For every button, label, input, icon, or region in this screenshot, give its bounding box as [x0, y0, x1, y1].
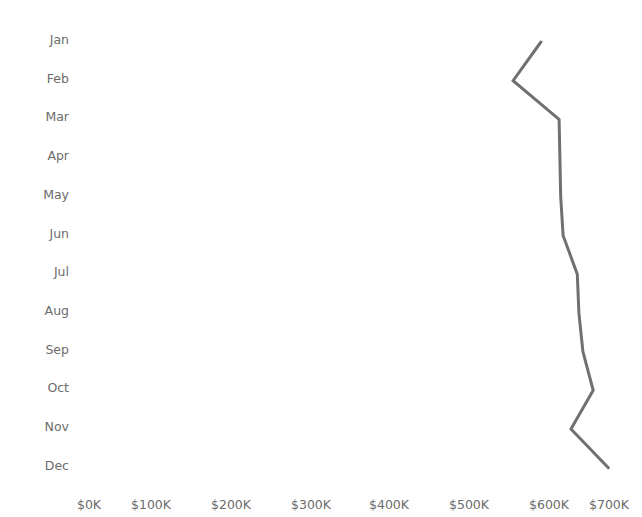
series-line	[513, 42, 608, 468]
line-plot	[0, 0, 642, 517]
